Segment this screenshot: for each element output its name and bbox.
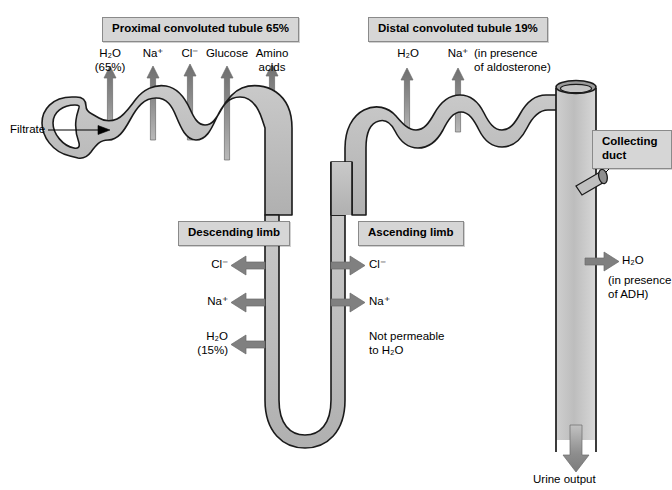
loop-of-henle-shape — [265, 215, 345, 448]
proximal-solute-amino-acids: Amino acids — [249, 47, 295, 74]
proximal-solute-glucose-line1: Glucose — [203, 47, 251, 61]
collecting-duct-water-label: H₂O — [622, 254, 644, 268]
proximal-section-label: Proximal convoluted tubule 65% — [102, 17, 299, 42]
arrow-left-cl-descending — [231, 256, 265, 275]
descending-item-cl: Cl⁻ — [196, 258, 228, 272]
proximal-solute-na: Na⁺ — [133, 47, 173, 61]
proximal-solute-amino-acids-line2: acids — [249, 61, 295, 75]
arrow-left-na-descending — [231, 293, 265, 312]
descending-item-na: Na⁺ — [194, 295, 228, 309]
descending-item-na-line1: Na⁺ — [194, 295, 228, 309]
distal-tubule-shape — [331, 95, 560, 215]
ascending-impermeability-note: Not permeable to H₂O — [369, 330, 444, 357]
distal-solute-h2o-line1: H₂O — [388, 47, 428, 61]
proximal-tubule-shape — [42, 86, 292, 215]
collecting-duct-adh-condition-line1: (in presence — [608, 274, 671, 288]
distal-section-label: Distal convoluted tubule 19% — [368, 17, 548, 42]
collecting-duct-adh-condition: (in presence of ADH) — [608, 274, 671, 301]
proximal-solute-h2o: H₂O (65%) — [86, 47, 134, 74]
distal-solute-na-line1: Na⁺ — [440, 47, 476, 61]
proximal-solute-na-line1: Na⁺ — [133, 47, 173, 61]
ascending-limb-label: Ascending limb — [358, 221, 464, 246]
descending-limb-arrows — [231, 256, 265, 354]
distal-aldosterone-condition-line2: of aldosterone) — [474, 61, 551, 75]
collecting-duct-adh-condition-line2: of ADH) — [608, 288, 671, 302]
proximal-solute-h2o-line2: (65%) — [86, 61, 134, 75]
ascending-impermeability-note-line2: to H₂O — [369, 344, 444, 358]
descending-item-h2o: H₂O (15%) — [186, 330, 228, 357]
proximal-solute-amino-acids-line1: Amino — [249, 47, 295, 61]
ascending-item-na-line1: Na⁺ — [369, 295, 390, 309]
descending-item-cl-line1: Cl⁻ — [196, 258, 228, 272]
urine-output-label: Urine output — [533, 473, 596, 487]
proximal-convoluted-tubule — [42, 86, 292, 215]
collecting-duct-label: Collecting duct — [592, 130, 672, 169]
proximal-solute-h2o-line1: H₂O — [86, 47, 134, 61]
filtrate-label: Filtrate — [10, 123, 45, 137]
ascending-item-na: Na⁺ — [369, 295, 390, 309]
collecting-duct-rim-inner — [561, 84, 592, 92]
distal-solute-h2o: H₂O — [388, 47, 428, 61]
proximal-solute-glucose: Glucose — [203, 47, 251, 61]
arrow-up-na-proximal — [147, 66, 159, 140]
collecting-duct-label-line1: Collecting — [602, 135, 662, 149]
distal-aldosterone-condition-line1: (in presence — [474, 47, 551, 61]
distal-solute-na: Na⁺ — [440, 47, 476, 61]
descending-item-h2o-line1: H₂O — [186, 330, 228, 344]
ascending-item-cl: Cl⁻ — [369, 258, 386, 272]
arrow-left-h2o-descending — [231, 335, 265, 354]
arrow-up-glucose-proximal — [221, 66, 233, 160]
descending-item-h2o-line2: (15%) — [186, 344, 228, 358]
descending-limb-label: Descending limb — [178, 221, 290, 246]
descending-limb — [265, 215, 345, 448]
collecting-duct-label-line2: duct — [602, 149, 662, 163]
distal-aldosterone-condition: (in presence of aldosterone) — [474, 47, 551, 74]
ascending-impermeability-note-line1: Not permeable — [369, 330, 444, 344]
ascending-item-cl-line1: Cl⁻ — [369, 258, 386, 272]
ascending-limb-and-distal-tubule — [331, 95, 560, 215]
